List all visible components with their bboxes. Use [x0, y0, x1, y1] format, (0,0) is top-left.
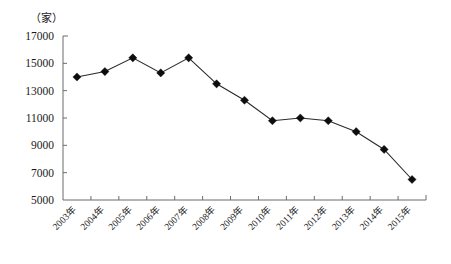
data-point-marker: [101, 67, 109, 75]
x-axis-tick-label: 2009年: [218, 204, 246, 232]
data-point-marker: [240, 96, 248, 104]
chart-axes: [63, 36, 426, 200]
y-axis-unit-label-group: （家）: [30, 11, 63, 24]
data-point-marker: [73, 73, 81, 81]
data-series: [73, 54, 416, 184]
x-axis-tick-label: 2014年: [357, 204, 385, 232]
x-axis-tick-label: 2007年: [162, 204, 190, 232]
line-chart: （家） 17000150001300011000900070005000 200…: [0, 0, 451, 264]
x-axis-tick-label: 2012年: [301, 204, 329, 232]
y-axis-tick-label: 7000: [31, 167, 54, 179]
data-point-marker: [296, 114, 304, 122]
chart-container: （家） 17000150001300011000900070005000 200…: [0, 0, 451, 264]
data-point-marker: [129, 54, 137, 62]
x-axis-tick-label: 2015年: [385, 204, 413, 232]
y-axis-tick-label: 5000: [31, 194, 54, 206]
y-axis-tick-label: 15000: [25, 57, 54, 69]
x-axis-tick-label: 2004年: [78, 204, 106, 232]
x-axis-tick-label: 2013年: [329, 204, 357, 232]
x-axis-tick-labels: 2003年2004年2005年2006年2007年2008年2009年2010年…: [50, 204, 413, 232]
x-axis-tick-label: 2006年: [134, 204, 162, 232]
x-axis-tick-label: 2011年: [274, 204, 302, 232]
axis-lines: [63, 36, 426, 200]
data-point-marker: [268, 117, 276, 125]
data-point-marker: [157, 69, 165, 77]
x-axis-tick-label: 2010年: [246, 204, 274, 232]
y-axis-tick-labels: 17000150001300011000900070005000: [25, 30, 54, 206]
y-axis-tick-label: 17000: [25, 30, 54, 42]
data-point-marker: [324, 117, 332, 125]
y-axis-tick-label: 11000: [26, 112, 55, 124]
series-line-path: [77, 58, 412, 180]
y-axis-unit-label: （家）: [30, 11, 63, 24]
y-axis-tick-label: 13000: [25, 85, 54, 97]
y-axis-tick-label: 9000: [31, 139, 54, 151]
x-axis-tick-label: 2003年: [50, 204, 78, 232]
data-point-marker: [352, 128, 360, 136]
x-axis-tick-label: 2008年: [190, 204, 218, 232]
x-axis-tick-label: 2005年: [106, 204, 134, 232]
